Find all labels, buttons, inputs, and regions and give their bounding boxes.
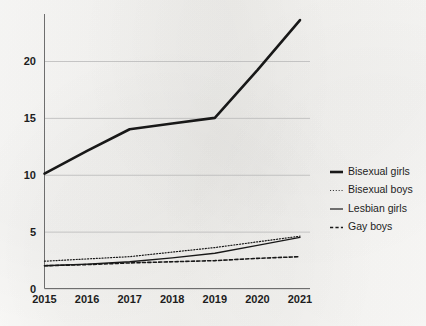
x-tick-label-2017: 2017 [117,293,141,305]
legend-label-gay-boys: Gay boys [348,220,392,232]
x-tick-label-2019: 2019 [203,293,227,305]
x-tick-label-2020: 2020 [245,293,269,305]
y-tick-label-10: 10 [24,169,36,181]
x-tick-label-2015: 2015 [32,293,56,305]
chart-svg: 05101520 2015201620172018201920202021 Bi… [0,0,426,326]
x-tick-label-2016: 2016 [75,293,99,305]
legend-label-bisexual-boys: Bisexual boys [348,183,413,195]
legend-label-lesbian-girls: Lesbian girls [348,202,407,214]
x-tick-label-2018: 2018 [160,293,184,305]
data-series-group [45,20,301,266]
legend-label-bisexual-girls: Bisexual girls [348,165,410,177]
gridlines-group [45,62,311,290]
chart-legend: Bisexual girlsBisexual boysLesbian girls… [330,165,413,233]
x-axis-tick-labels: 2015201620172018201920202021 [32,293,312,305]
y-tick-label-15: 15 [24,112,36,124]
y-tick-label-20: 20 [24,55,36,67]
line-chart-figure: 05101520 2015201620172018201920202021 Bi… [0,0,426,326]
y-tick-label-5: 5 [30,226,36,238]
x-tick-label-2021: 2021 [288,293,312,305]
y-axis-tick-labels: 05101520 [24,55,36,295]
series-line-bisexual-girls [45,20,301,174]
